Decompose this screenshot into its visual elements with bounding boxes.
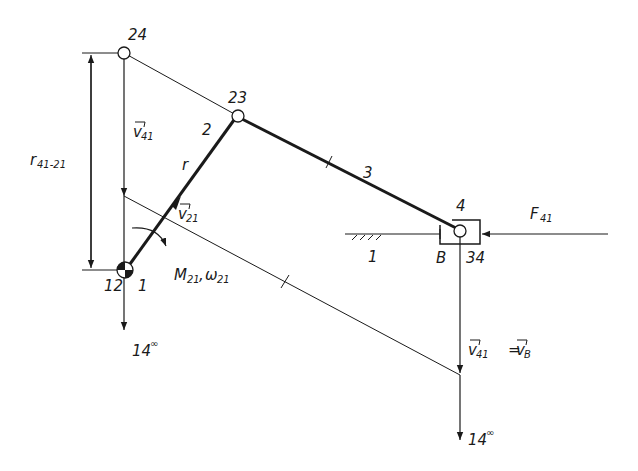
svg-text:r: r <box>30 151 37 169</box>
label-v41-equals-vB: v 41 = v B <box>468 341 531 360</box>
ground-slider <box>345 229 440 240</box>
joint-24 <box>118 47 130 59</box>
svg-text:41-21: 41-21 <box>37 159 66 170</box>
link-3-coupler <box>242 119 456 228</box>
label-moment-omega: M 21 , ω 21 <box>174 266 230 285</box>
label-34: 34 <box>466 249 485 267</box>
label-pivot-1: 1 <box>138 277 148 295</box>
label-radius-r: r <box>182 156 189 174</box>
label-24: 24 <box>128 26 147 44</box>
joint-34 <box>454 225 466 237</box>
construction-line-24-23 <box>124 53 238 116</box>
dimension-r41-21 <box>82 53 118 270</box>
svg-text:21: 21 <box>186 213 199 224</box>
label-v21: v 21 <box>178 205 199 224</box>
label-v41-top: v 41 <box>133 123 154 142</box>
svg-text:B: B <box>524 349 531 360</box>
svg-text:,: , <box>199 266 204 284</box>
svg-text:41: 41 <box>476 349 489 360</box>
svg-text:M: M <box>174 266 187 284</box>
svg-text:14: 14 <box>132 342 151 360</box>
label-12: 12 <box>104 277 123 295</box>
ground-pivot-12 <box>117 262 133 278</box>
svg-text:21: 21 <box>187 274 200 285</box>
svg-text:14: 14 <box>468 431 487 449</box>
joint-23 <box>232 110 244 122</box>
mechanism-diagram: 24 23 2 r 3 4 1 B 34 12 1 r 41-21 v 41 v… <box>0 0 638 471</box>
velocity-construction-line <box>124 196 460 375</box>
label-r41-21: r 41-21 <box>30 151 66 170</box>
label-link-2: 2 <box>202 121 212 139</box>
label-slider-4: 4 <box>456 197 466 215</box>
tick-mark-diagonal <box>281 275 289 288</box>
svg-text:F: F <box>530 205 539 223</box>
label-link-3: 3 <box>363 164 373 182</box>
label-pole-14-right: 14 ∞ <box>468 427 494 449</box>
svg-text:41: 41 <box>141 131 154 142</box>
svg-text:21: 21 <box>217 274 230 285</box>
label-ground-1: 1 <box>368 248 378 266</box>
label-F41: F 41 <box>530 205 553 224</box>
label-pole-14-left: 14 ∞ <box>132 338 158 360</box>
svg-text:∞: ∞ <box>150 338 158 349</box>
label-23: 23 <box>228 89 247 107</box>
label-B: B <box>436 249 446 267</box>
svg-text:ω: ω <box>205 266 218 284</box>
svg-text:41: 41 <box>540 213 553 224</box>
svg-text:∞: ∞ <box>486 427 494 438</box>
